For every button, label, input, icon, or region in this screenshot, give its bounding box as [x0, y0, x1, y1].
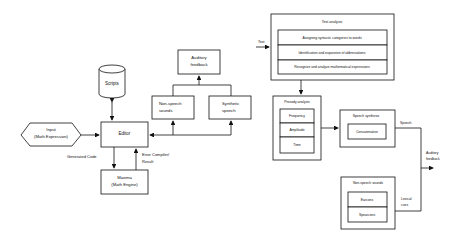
- speech-synthesis-title: Speech synthesis: [353, 114, 380, 118]
- lexical-label-line1: Lexical: [401, 197, 412, 201]
- auditory-right-line1: Auditory: [426, 151, 439, 155]
- maxima-node: Maxima (Math Engine): [101, 170, 148, 194]
- text-analysis-title: Text analysis: [322, 20, 343, 24]
- input-label-line2: (Math Expression): [34, 134, 69, 139]
- lexical-label-line2: cues: [401, 203, 408, 207]
- synthetic-label-line2: speech: [222, 108, 236, 113]
- diagram-canvas: Scripts Input (Math Expression) Editor M…: [0, 0, 460, 243]
- auditory-feedback-node-left: Auditory feedback: [178, 50, 220, 74]
- nonspeech-label-line2: sounds: [159, 108, 173, 113]
- auditory-right-line2: feedback: [426, 157, 440, 161]
- error-label-line2: Result: [142, 159, 154, 164]
- synthetic-speech-node-left: Synthetic speech: [209, 96, 251, 119]
- generated-code-label: Generated Code: [67, 154, 97, 159]
- text-input-label: Text: [258, 40, 265, 44]
- prosody-analysis-node: Prosody analysis Frequency Amplitude Tim…: [273, 96, 321, 160]
- nonspeech-label-line1: Non-speech: [159, 101, 182, 106]
- auditory-label-line2: feedback: [191, 62, 209, 67]
- editor-label: Editor: [119, 131, 131, 136]
- non-speech-item: Spearcons: [359, 213, 376, 217]
- non-speech-sounds-node-left: Non-speech sounds: [152, 96, 194, 119]
- scripts-label: Scripts: [105, 81, 120, 86]
- speech-label: Speech: [400, 121, 412, 125]
- prosody-item: Amplitude: [289, 128, 304, 132]
- maxima-label-line1: Maxima: [117, 175, 132, 180]
- maxima-label-line2: (Math Engine): [111, 182, 138, 187]
- text-analysis-item: Identification and expansion of abbrevia…: [299, 51, 366, 55]
- text-analysis-node: Text analysis Assigning syntactic catego…: [271, 14, 394, 80]
- scripts-database: Scripts: [99, 65, 125, 98]
- input-node: Input (Math Expression): [21, 123, 81, 146]
- prosody-item: Time: [293, 143, 301, 147]
- non-speech-title: Non-speech sounds: [353, 181, 383, 185]
- editor-node: Editor: [101, 122, 148, 147]
- synthetic-label-line1: Synthetic: [222, 101, 239, 106]
- input-label-line1: Input: [46, 127, 56, 132]
- non-speech-item: Earcons: [361, 198, 374, 202]
- prosody-item: Frequency: [289, 114, 305, 118]
- non-speech-sounds-node-right: Non-speech sounds Earcons Spearcons: [341, 177, 395, 229]
- prosody-title: Prosody analysis: [284, 100, 310, 104]
- auditory-label-line1: Auditory: [191, 55, 207, 60]
- speech-synthesis-node: Speech synthesis Concatenative: [340, 110, 395, 147]
- error-label-line1: Error Compiler/: [142, 152, 170, 157]
- text-analysis-item: Recognize and analyze mathematical expre…: [294, 65, 370, 69]
- text-analysis-item: Assigning syntactic categories to words: [302, 36, 361, 40]
- speech-synthesis-item: Concatenative: [356, 130, 378, 134]
